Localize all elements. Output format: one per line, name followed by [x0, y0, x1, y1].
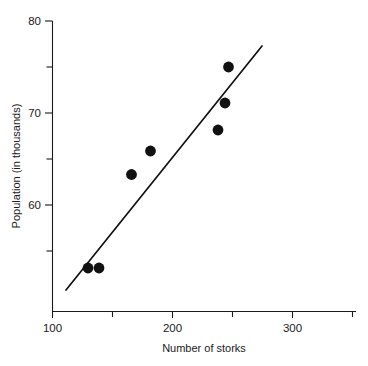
x-tick-label-200: 200	[163, 322, 182, 334]
data-point	[83, 263, 94, 274]
data-point	[126, 169, 137, 180]
x-tick-label-300: 300	[283, 322, 302, 334]
data-point	[220, 98, 231, 109]
data-point	[94, 263, 105, 274]
trend-line	[66, 46, 262, 290]
y-tick-label-70: 70	[28, 107, 41, 119]
data-point	[223, 62, 234, 73]
plot-area: 80 70 60 100 200 300 Number of storks Po…	[0, 0, 368, 366]
scatter-chart: 80 70 60 100 200 300 Number of storks Po…	[0, 0, 368, 366]
y-tick-label-80: 80	[28, 15, 41, 27]
y-tick-label-60: 60	[28, 199, 41, 211]
data-point	[213, 125, 224, 136]
x-axis-title: Number of storks	[162, 342, 246, 354]
x-tick-label-100: 100	[43, 322, 62, 334]
data-point	[145, 146, 156, 157]
y-axis-title: Population (in thousands)	[10, 104, 22, 229]
